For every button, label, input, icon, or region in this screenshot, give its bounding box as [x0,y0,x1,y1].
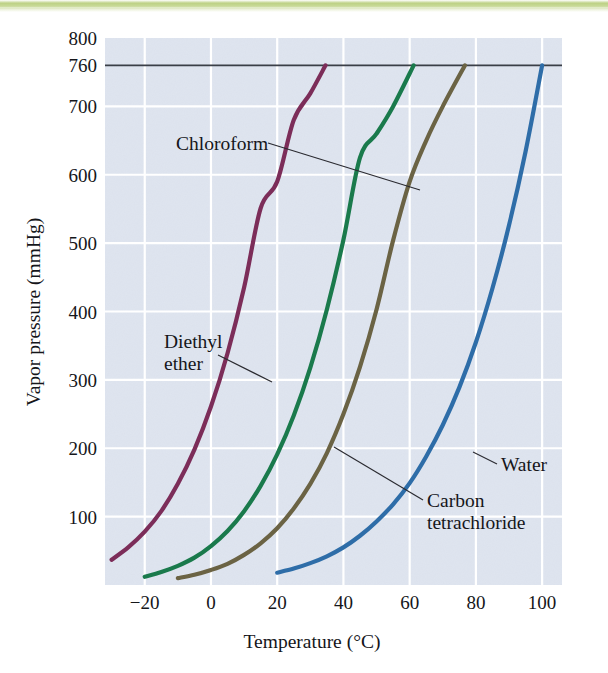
label-carbon-tetrachloride-line2: tetrachloride [427,512,526,533]
y-tick-400: 400 [69,302,98,323]
label-diethyl-ether-line1: Diethyl [164,331,223,352]
y-axis-tick-labels: 800 760 700 600 500 400 300 200 100 [69,28,98,528]
x-tick-40: 40 [334,592,353,613]
y-tick-500: 500 [69,233,98,254]
y-tick-200: 200 [69,438,98,459]
y-axis-title: Vapor pressure (mmHg) [23,218,45,406]
y-tick-100: 100 [69,507,98,528]
x-axis-title: Temperature (°C) [244,631,381,653]
x-tick-0: 0 [206,592,216,613]
x-tick-minus20: −20 [130,592,160,613]
x-axis-tick-labels: −20 0 20 40 60 80 100 [130,592,557,613]
x-tick-80: 80 [466,592,485,613]
y-tick-700: 700 [69,96,98,117]
y-tick-760: 760 [69,55,98,76]
x-tick-60: 60 [400,592,419,613]
label-diethyl-ether-line2: ether [164,353,203,374]
vapor-pressure-chart: 800 760 700 600 500 400 300 200 100 −20 … [0,0,608,673]
y-tick-800: 800 [69,28,98,49]
label-chloroform: Chloroform [176,133,268,154]
label-carbon-tetrachloride-line1: Carbon [427,490,485,511]
x-tick-20: 20 [268,592,287,613]
y-tick-300: 300 [69,370,98,391]
y-tick-600: 600 [69,165,98,186]
label-water: Water [501,454,548,475]
x-tick-100: 100 [528,592,557,613]
figure-root: 800 760 700 600 500 400 300 200 100 −20 … [0,0,608,673]
